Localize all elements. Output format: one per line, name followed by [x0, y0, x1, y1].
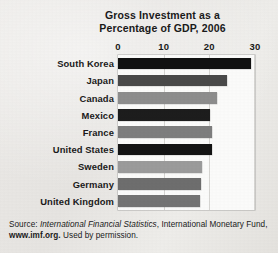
source-prefix: Source:	[9, 220, 40, 229]
source-note-line-2: www.imf.org. Used by permission.	[9, 231, 271, 242]
bar-row	[118, 141, 255, 158]
category-label-germany: Germany	[0, 179, 114, 190]
bar-canada	[118, 92, 217, 104]
bar-row	[118, 124, 255, 141]
source-note: Source: International Financial Statisti…	[9, 220, 271, 241]
category-label-sweden: Sweden	[0, 161, 114, 172]
bar-united-kingdom	[118, 195, 200, 207]
category-label-france: France	[0, 127, 114, 138]
bar-south-korea	[118, 58, 251, 70]
bar-row	[118, 107, 255, 124]
source-url[interactable]: www.imf.org.	[9, 231, 61, 240]
bar-japan	[118, 75, 227, 87]
chart-title-line-2: Percentage of GDP, 2006	[60, 22, 265, 35]
source-note-line-1: Source: International Financial Statisti…	[9, 220, 271, 231]
x-axis-tick-labels: 0102030	[0, 41, 278, 54]
bar-germany	[118, 178, 201, 190]
bar-row	[118, 55, 255, 72]
bar-row	[118, 72, 255, 89]
chart-title-line-1: Gross Investment as a	[60, 9, 265, 22]
source-publication: International Financial Statistics	[40, 220, 157, 229]
bar-chart-figure: Gross Investment as a Percentage of GDP,…	[0, 0, 278, 253]
bar-row	[118, 89, 255, 106]
bar-mexico	[118, 109, 210, 121]
x-tick-label-30: 30	[250, 41, 261, 52]
category-label-south-korea: South Korea	[0, 58, 114, 69]
y-axis-category-labels: South KoreaJapanCanadaMexicoFranceUnited…	[0, 55, 114, 210]
chart-title: Gross Investment as a Percentage of GDP,…	[60, 9, 265, 34]
x-tick-label-20: 20	[204, 41, 215, 52]
source-permission: Used by permission.	[61, 231, 138, 240]
x-tick-label-10: 10	[158, 41, 169, 52]
category-label-japan: Japan	[0, 75, 114, 86]
category-label-canada: Canada	[0, 93, 114, 104]
source-organization: , International Monetary Fund,	[157, 220, 268, 229]
bar-row	[118, 158, 255, 175]
category-label-united-states: United States	[0, 144, 114, 155]
bar-france	[118, 126, 212, 138]
category-label-mexico: Mexico	[0, 110, 114, 121]
category-label-united-kingdom: United Kingdom	[0, 196, 114, 207]
bar-series	[118, 55, 255, 210]
plot-area	[118, 55, 255, 210]
bar-sweden	[118, 161, 202, 173]
bar-united-states	[118, 144, 212, 156]
bar-row	[118, 193, 255, 210]
bar-row	[118, 176, 255, 193]
x-tick-label-0: 0	[115, 41, 120, 52]
